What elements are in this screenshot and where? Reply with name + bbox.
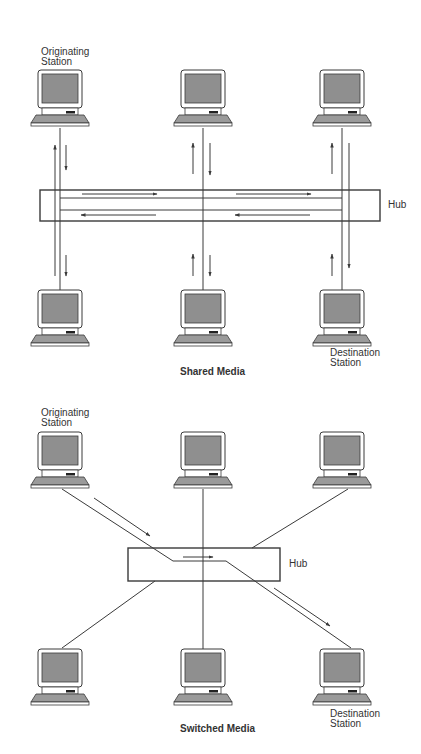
diagram-caption: Switched Media <box>180 723 255 734</box>
cable-bottom-left <box>62 581 155 648</box>
originating-station-label: Originating Station <box>41 408 89 428</box>
diagram-caption: Shared Media <box>180 366 245 377</box>
shared-media-diagram <box>40 128 380 290</box>
computer-icon <box>313 432 371 488</box>
computer-icon <box>31 649 89 705</box>
destination-station-label: Destination Station <box>330 348 380 368</box>
originating-station-label: Originating Station <box>41 47 89 67</box>
computer-icon <box>31 432 89 488</box>
computer-icon <box>174 432 232 488</box>
label-line: Station <box>330 719 380 729</box>
hub-box <box>128 548 280 581</box>
hub-label: Hub <box>289 559 307 569</box>
hub-label: Hub <box>388 200 406 210</box>
computer-icon <box>174 70 232 126</box>
switched-media-diagram <box>62 489 351 650</box>
computer-icon <box>174 290 232 346</box>
computer-icon <box>174 649 232 705</box>
arrow-diagonal-icon <box>94 498 150 536</box>
computer-icon <box>31 70 89 126</box>
network-diagram <box>0 0 421 754</box>
switched-path <box>62 489 351 648</box>
computer-icon <box>31 290 89 346</box>
computer-icon <box>313 290 371 346</box>
computer-icon <box>313 70 371 126</box>
hub-box <box>40 190 380 221</box>
label-line: Station <box>41 57 89 67</box>
destination-station-label: Destination Station <box>330 709 380 729</box>
label-line: Station <box>41 418 89 428</box>
arrow-diagonal-icon <box>274 588 330 626</box>
computer-icon <box>313 649 371 705</box>
cable-top-right <box>252 489 348 548</box>
label-line: Station <box>330 358 380 368</box>
